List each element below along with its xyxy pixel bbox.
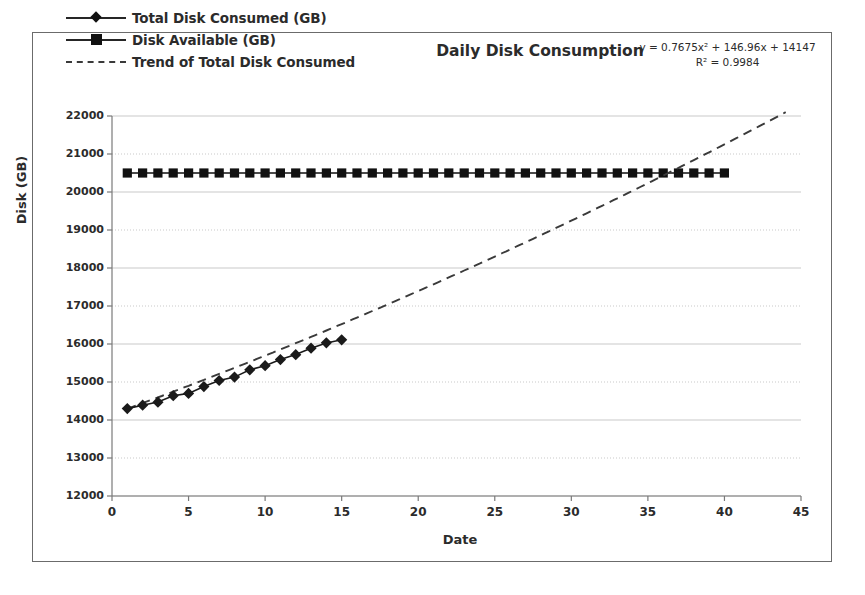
legend-item-trend[interactable]: Trend of Total Disk Consumed (66, 52, 355, 72)
legend-item-total-disk-consumed[interactable]: Total Disk Consumed (GB) (66, 8, 355, 28)
legend-label: Trend of Total Disk Consumed (132, 54, 355, 70)
chart-frame (32, 32, 832, 562)
legend-label: Disk Available (GB) (132, 32, 276, 48)
legend-label: Total Disk Consumed (GB) (132, 10, 326, 26)
x-axis-title: Date (380, 532, 540, 547)
diamond-marker-icon (66, 10, 126, 26)
trendline-equation-annotation: y = 0.7675x² + 146.96x + 14147 R² = 0.99… (620, 40, 835, 70)
chart-legend: Total Disk Consumed (GB) Disk Available … (66, 8, 355, 72)
y-axis-title: Disk (GB) (14, 130, 29, 250)
dashed-line-icon (66, 54, 126, 70)
r-squared-text: R² = 0.9984 (620, 55, 835, 70)
legend-item-disk-available[interactable]: Disk Available (GB) (66, 30, 355, 50)
square-marker-icon (66, 32, 126, 48)
equation-text: y = 0.7675x² + 146.96x + 14147 (620, 40, 835, 55)
